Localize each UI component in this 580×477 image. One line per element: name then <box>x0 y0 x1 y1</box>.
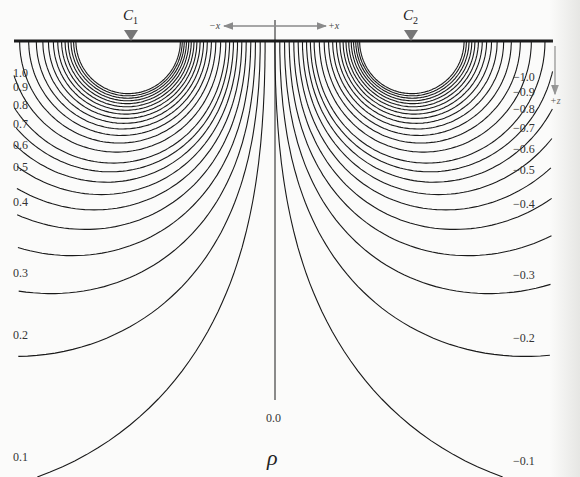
electrode-c1-label: C1 <box>123 7 138 26</box>
negative-label-1: −0.9 <box>513 86 535 98</box>
positive-label-1: 0.9 <box>13 81 28 93</box>
equipotential-curves <box>14 41 553 477</box>
negative-equipotential-curve <box>336 41 497 123</box>
positive-label-8: 0.2 <box>13 329 28 341</box>
negative-label-9: −0.1 <box>513 455 535 467</box>
electrode-c1-marker-icon <box>124 30 138 41</box>
positive-label-4: 0.6 <box>13 139 28 151</box>
negative-label-6: −0.4 <box>513 198 535 210</box>
negative-equipotential-curve <box>285 41 551 294</box>
negative-equipotential-curve <box>360 41 465 94</box>
positive-equipotential-curve <box>76 41 180 94</box>
positive-label-0: 1.0 <box>13 67 28 79</box>
negative-label-5: −0.5 <box>513 164 535 176</box>
electrode-c1-letter: C <box>123 7 133 23</box>
positive-equipotential-curve <box>43 41 204 123</box>
negative-label-4: −0.6 <box>513 143 535 155</box>
positive-equipotential-curve <box>37 41 265 477</box>
negative-label-0: −1.0 <box>513 71 535 83</box>
positive-label-7: 0.3 <box>13 267 28 279</box>
positive-equipotential-curve <box>19 41 256 294</box>
negative-equipotential-curve <box>275 41 503 477</box>
positive-label-2: 0.8 <box>13 99 28 111</box>
electrode-c2-subscript: 2 <box>413 15 418 26</box>
rho-symbol: ρ <box>267 445 278 471</box>
electrode-c2-letter: C <box>403 7 413 23</box>
positive-label-9: 0.1 <box>13 451 28 463</box>
neg-x-label: −x <box>209 20 220 31</box>
pos-x-label: +x <box>328 20 339 31</box>
positive-label-3: 0.7 <box>13 118 28 130</box>
positive-equipotential-curve <box>18 41 260 356</box>
positive-label-6: 0.4 <box>13 196 28 208</box>
positive-label-5: 0.5 <box>13 161 28 173</box>
negative-label-7: −0.3 <box>513 269 535 281</box>
negative-label-8: −0.2 <box>513 332 535 344</box>
negative-label-2: −0.8 <box>513 103 535 115</box>
equipotential-diagram <box>0 0 580 477</box>
electrode-c2-label: C2 <box>403 7 418 26</box>
electrode-c2-marker-icon <box>404 30 418 41</box>
electrode-c1-subscript: 1 <box>133 15 138 26</box>
negative-label-3: −0.7 <box>513 122 535 134</box>
zero-value-label: 0.0 <box>266 412 281 424</box>
page-edge-shading <box>550 0 580 477</box>
